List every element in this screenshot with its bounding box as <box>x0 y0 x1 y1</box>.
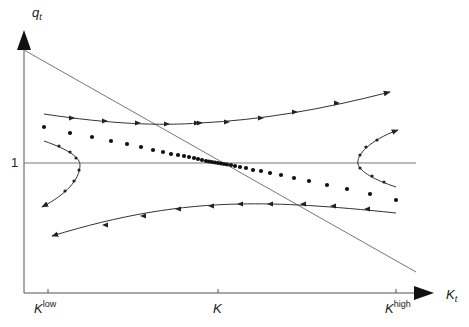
x-axis-label: Kt <box>446 288 457 301</box>
right-hyperbola-trajectory <box>358 130 398 187</box>
upper-trajectory <box>44 92 390 127</box>
capital-locus-line <box>24 50 416 272</box>
lower-trajectory <box>52 202 396 237</box>
diagram-canvas <box>0 0 469 327</box>
left-hyperbola-trajectory <box>42 141 81 207</box>
y-axis-label: qt <box>32 6 42 19</box>
x-axis <box>24 286 434 300</box>
x-tick-k-high: Khigh <box>385 302 411 315</box>
x-tick-k-low: Klow <box>34 302 56 315</box>
y-tick-one: 1 <box>11 156 18 169</box>
x-tick-k-steady: K <box>213 302 222 315</box>
y-axis <box>17 30 31 293</box>
phase-diagram: qt Kt 1 Klow K Khigh <box>0 0 469 327</box>
